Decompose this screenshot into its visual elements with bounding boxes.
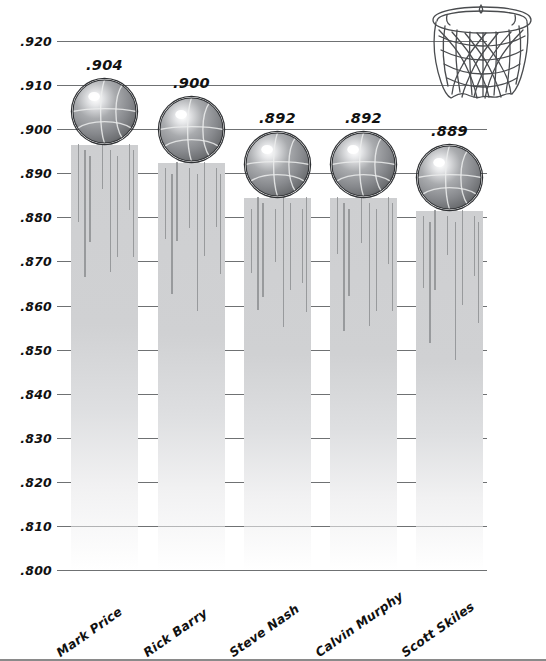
net-strand — [337, 197, 339, 254]
net-strand — [474, 216, 476, 276]
net-strand — [129, 144, 131, 210]
net-strand — [89, 156, 91, 242]
net-strand — [348, 209, 350, 296]
net-strand — [84, 150, 86, 277]
net-strand — [117, 156, 119, 257]
net-strand — [306, 197, 308, 312]
bar-value-label: .904 — [86, 57, 123, 73]
x-axis-category-label: Steve Nash — [226, 601, 302, 660]
y-axis-tick-label: .830 — [4, 430, 52, 445]
net-strand — [429, 222, 431, 343]
basketball-marker — [72, 79, 137, 144]
net-strand — [262, 203, 264, 297]
net-strand — [455, 222, 457, 360]
net-strand — [462, 210, 464, 305]
net-strand — [392, 203, 394, 311]
bar-value-label: .900 — [173, 75, 210, 91]
net-strand — [102, 144, 104, 189]
x-axis-category-label: Scott Skiles — [398, 599, 477, 660]
bar-value-label: .892 — [345, 110, 382, 126]
net-strand — [133, 150, 135, 257]
net-strand — [216, 168, 218, 227]
x-axis-category-label: Mark Price — [53, 604, 125, 660]
net-strand — [176, 162, 178, 241]
y-axis-tick-label: .840 — [4, 386, 52, 401]
x-axis-category-label: Rick Barry — [140, 605, 210, 660]
net-strand — [275, 209, 277, 262]
bar-value-label: .889 — [431, 123, 468, 139]
net-strand — [302, 209, 304, 283]
net-strand — [478, 222, 480, 323]
net-strand — [376, 209, 378, 311]
net-strand — [171, 174, 173, 294]
net-strand — [189, 168, 191, 228]
net-strand — [251, 209, 253, 273]
free-throw-percentage-chart: .920.910.900.890.880.870.860.850.840.830… — [0, 0, 546, 661]
net-strand — [220, 174, 222, 274]
net-strand — [110, 150, 112, 272]
basketball-marker — [331, 132, 396, 197]
y-axis-tick-label: .920 — [4, 34, 52, 49]
net-strand — [283, 197, 285, 327]
net-strand — [447, 216, 449, 255]
net-strand — [204, 162, 206, 256]
y-axis-tick-label: .860 — [4, 298, 52, 313]
y-axis-tick-label: .910 — [4, 78, 52, 93]
basketball-marker — [159, 97, 224, 162]
net-strand — [361, 197, 363, 243]
x-axis-category-label: Calvin Murphy — [312, 588, 406, 660]
net-strand — [434, 210, 436, 290]
net-strand — [257, 197, 259, 310]
y-axis-tick-label: .870 — [4, 254, 52, 269]
y-axis-tick-label: .800 — [4, 563, 52, 578]
net-strand — [78, 144, 80, 222]
net-strand — [343, 203, 345, 331]
y-axis-tick-label: .880 — [4, 210, 52, 225]
y-axis-tick-label: .810 — [4, 518, 52, 533]
basketball-hoop-icon — [419, 2, 543, 102]
net-strand — [388, 197, 390, 264]
net-strand — [369, 203, 371, 326]
y-axis-tick-label: .900 — [4, 122, 52, 137]
y-axis-tick-label: .890 — [4, 166, 52, 181]
bar-value-label: .892 — [259, 110, 296, 126]
basketball-marker — [417, 145, 482, 210]
net-strand — [197, 174, 199, 311]
basketball-marker — [245, 132, 310, 197]
net-strand — [165, 168, 167, 239]
y-axis-tick-label: .850 — [4, 342, 52, 357]
gridline — [57, 570, 487, 571]
y-axis-tick-label: .820 — [4, 474, 52, 489]
net-strand — [423, 216, 425, 288]
net-strand — [290, 203, 292, 290]
